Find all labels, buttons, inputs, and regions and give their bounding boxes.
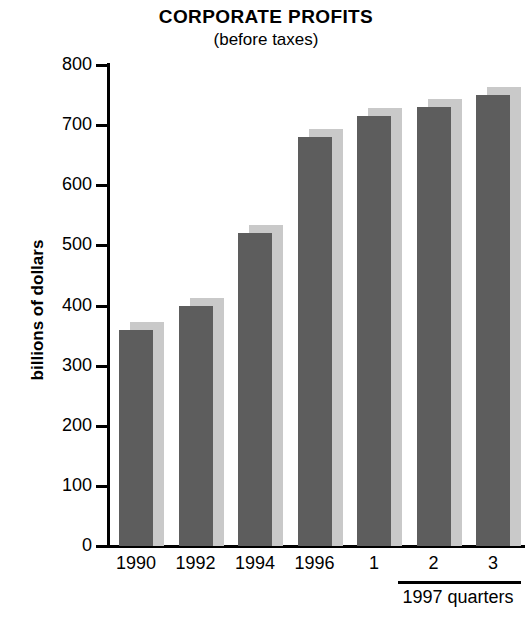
bar-group — [179, 65, 225, 546]
y-axis-tick-label: 800 — [4, 55, 92, 73]
bar — [238, 233, 272, 546]
y-axis-tick-label: 100 — [4, 476, 92, 494]
y-axis-tick-label: 500 — [4, 235, 92, 253]
y-axis-tick-label: 700 — [4, 115, 92, 133]
y-axis-tick-label: 400 — [4, 296, 92, 314]
bar — [298, 137, 332, 546]
bar — [119, 330, 153, 546]
quarter-group-underline — [398, 581, 521, 584]
bar-group — [357, 65, 403, 546]
y-axis-tick-labels: 8007006005004003002001000 — [0, 0, 92, 628]
bar — [179, 306, 213, 547]
quarter-group-label: 1997 quarters — [378, 586, 532, 608]
bar-group — [417, 65, 463, 546]
x-axis-tick-label: 3 — [458, 552, 528, 574]
bar-group — [119, 65, 165, 546]
bar — [417, 107, 451, 546]
y-axis-tick-label: 300 — [4, 356, 92, 374]
bar — [476, 95, 510, 546]
y-axis-tick-label: 600 — [4, 175, 92, 193]
y-axis-tick-label: 200 — [4, 416, 92, 434]
bar-group — [238, 65, 284, 546]
bar-group — [298, 65, 344, 546]
bar — [357, 116, 391, 546]
plot-area — [107, 65, 525, 546]
bar-group — [476, 65, 522, 546]
